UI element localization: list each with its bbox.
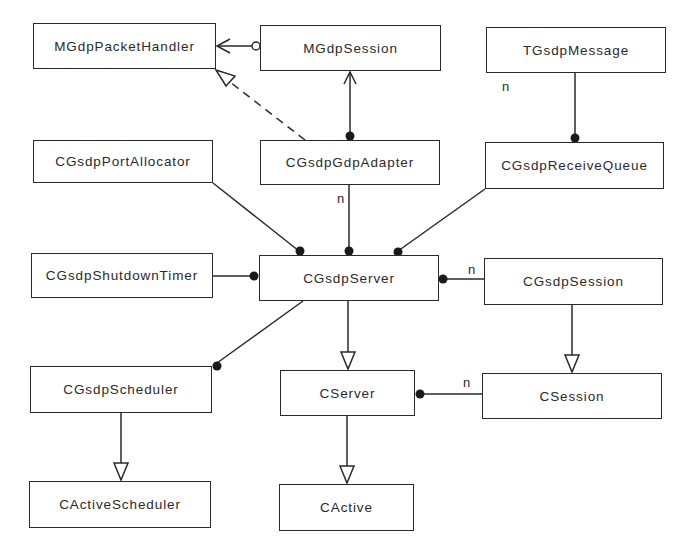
- class-cgsdpshutdowntimer: CGsdpShutdownTimer: [31, 253, 213, 298]
- class-label: MGdpPacketHandler: [54, 39, 195, 54]
- association-line: [217, 301, 303, 363]
- class-label: CGsdpSession: [523, 274, 624, 289]
- class-cgsdpgdpadapter: CGsdpGdpAdapter: [260, 140, 440, 185]
- ownership-dot: [250, 272, 259, 281]
- realization-line: [230, 82, 305, 140]
- multiplicity-label: n: [468, 262, 475, 277]
- class-cgsdpreceivequeue: CGsdpReceiveQueue: [485, 142, 664, 189]
- class-label: CSession: [540, 389, 605, 404]
- class-label: CServer: [320, 386, 376, 401]
- association-line: [398, 189, 485, 251]
- class-cgsdpportallocator: CGsdpPortAllocator: [33, 140, 213, 183]
- multiplicity-label: n: [502, 79, 509, 94]
- multiplicity-label: n: [337, 191, 344, 206]
- class-label: CActiveScheduler: [59, 497, 181, 512]
- class-cgsdpsession: CGsdpSession: [484, 258, 663, 305]
- class-cgsdpscheduler: CGsdpScheduler: [30, 366, 212, 413]
- ownership-dot: [439, 275, 448, 284]
- hollow-triangle-head: [216, 70, 235, 86]
- class-label: MGdpSession: [303, 41, 398, 56]
- class-label: CGsdpServer: [303, 271, 395, 286]
- ownership-dot: [416, 390, 425, 399]
- association-line: [213, 183, 299, 251]
- multiplicity-label: n: [463, 375, 470, 390]
- class-label: CActive: [320, 500, 373, 515]
- hollow-triangle-head: [341, 352, 355, 369]
- class-cserver: CServer: [280, 370, 415, 416]
- class-mgdppackethandler: MGdpPacketHandler: [33, 23, 216, 69]
- class-cactive: CActive: [279, 484, 414, 531]
- class-label: CGsdpShutdownTimer: [46, 268, 198, 283]
- hollow-triangle-head: [114, 463, 128, 480]
- ownership-dot: [213, 362, 222, 371]
- class-mgdpsession: MGdpSession: [260, 25, 441, 71]
- class-label: TGsdpMessage: [523, 43, 629, 58]
- class-cgsdpserver: CGsdpServer: [259, 255, 439, 301]
- class-tgsdpmessage: TGsdpMessage: [486, 27, 666, 73]
- class-cactivescheduler: CActiveScheduler: [29, 481, 211, 528]
- interface-circle: [252, 42, 260, 50]
- uml-diagram-canvas: MGdpPacketHandler MGdpSession TGsdpMessa…: [0, 0, 688, 556]
- class-csession: CSession: [482, 373, 662, 419]
- class-label: CGsdpReceiveQueue: [501, 158, 648, 173]
- class-label: CGsdpGdpAdapter: [286, 155, 414, 170]
- class-label: CGsdpPortAllocator: [55, 154, 191, 169]
- hollow-triangle-head: [340, 466, 354, 483]
- hollow-triangle-head: [565, 355, 579, 372]
- class-label: CGsdpScheduler: [63, 382, 178, 397]
